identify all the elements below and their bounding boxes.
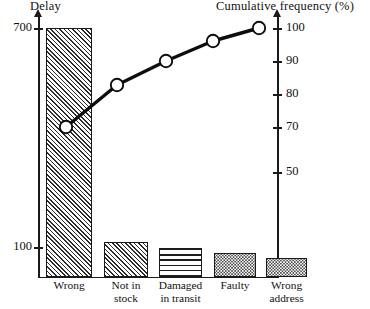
cumulative-path xyxy=(66,28,259,127)
left-axis-arrow-icon xyxy=(34,9,42,17)
cumulative-marker-3 xyxy=(160,55,172,67)
bar-4 xyxy=(214,253,256,277)
right-tick-mark xyxy=(273,127,282,129)
left-tick-mark xyxy=(34,247,43,249)
left-tick-label: 700 xyxy=(0,20,32,35)
category-label-line: Damaged xyxy=(159,279,203,292)
category-label-line: Faulty xyxy=(220,279,249,292)
right-tick-mark xyxy=(273,28,282,30)
right-axis-title: Cumulative frequency (%) xyxy=(216,0,354,14)
right-tick-label: 50 xyxy=(286,164,299,179)
right-axis-line xyxy=(277,17,279,278)
left-tick-mark xyxy=(34,28,43,30)
category-label-5: Wrongaddress xyxy=(255,278,318,309)
category-label-line: in transit xyxy=(160,292,200,305)
bar-5 xyxy=(266,258,307,277)
category-label-line: Wrong xyxy=(53,279,84,292)
bar-1 xyxy=(46,28,92,277)
category-label-line: Not in xyxy=(112,279,141,292)
category-label-line: stock xyxy=(114,292,138,305)
right-tick-mark xyxy=(273,172,282,174)
cumulative-marker-5 xyxy=(253,22,265,34)
category-label-line: address xyxy=(269,292,303,305)
bar-3 xyxy=(159,248,202,277)
right-tick-label: 90 xyxy=(286,53,299,68)
right-tick-mark xyxy=(273,61,282,63)
bar-2 xyxy=(104,242,148,277)
right-tick-label: 100 xyxy=(286,20,305,35)
category-label-line: Wrong xyxy=(271,279,302,292)
cumulative-marker-2 xyxy=(111,79,123,91)
left-tick-label: 100 xyxy=(0,239,32,254)
right-tick-label: 70 xyxy=(286,119,299,134)
right-tick-mark xyxy=(273,94,282,96)
right-tick-label: 80 xyxy=(286,86,299,101)
cumulative-marker-4 xyxy=(207,35,219,47)
right-axis-arrow-icon xyxy=(273,9,281,17)
pareto-chart: Delay Cumulative frequency (%) 700100 10… xyxy=(0,0,370,309)
left-axis-line xyxy=(38,17,40,278)
